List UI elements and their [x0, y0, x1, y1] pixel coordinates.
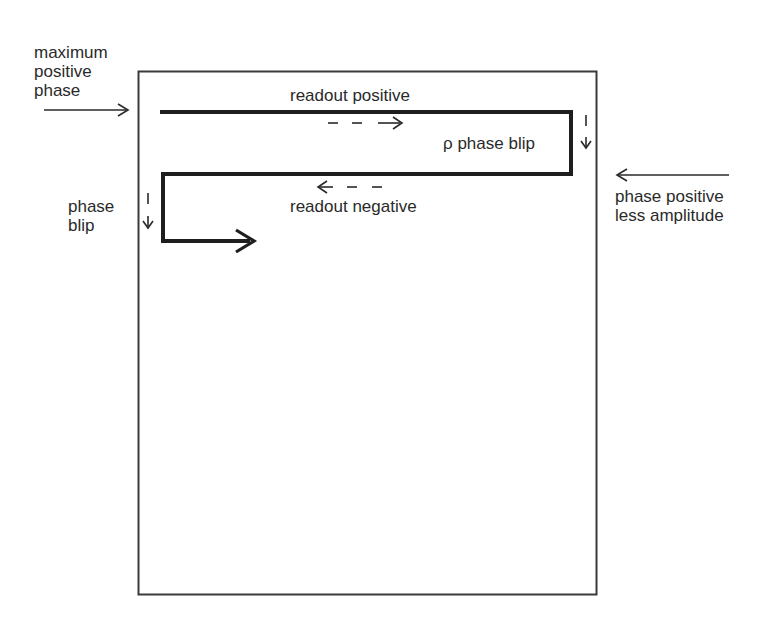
- arrow-phase-positive-less-amplitude: [617, 169, 729, 181]
- label-pi-phase-blip: ρ phase blip: [443, 134, 535, 153]
- arrow-max-positive-phase: [44, 104, 128, 116]
- label-phase-positive-less-amplitude: phase positive less amplitude: [615, 187, 724, 225]
- dashed-arrow-readout-negative: [318, 181, 382, 193]
- label-max-positive-phase: maximum positive phase: [34, 43, 108, 100]
- dashed-arrow-readout-positive: [328, 117, 402, 129]
- label-phase-blip: phase blip: [68, 197, 114, 235]
- label-readout-negative: readout negative: [290, 197, 417, 216]
- down-arrow-pi-phase-blip-icon: [581, 115, 591, 148]
- k-space-trajectory: [160, 112, 571, 252]
- down-arrow-phase-blip-icon: [143, 193, 153, 228]
- label-readout-positive: readout positive: [290, 86, 410, 105]
